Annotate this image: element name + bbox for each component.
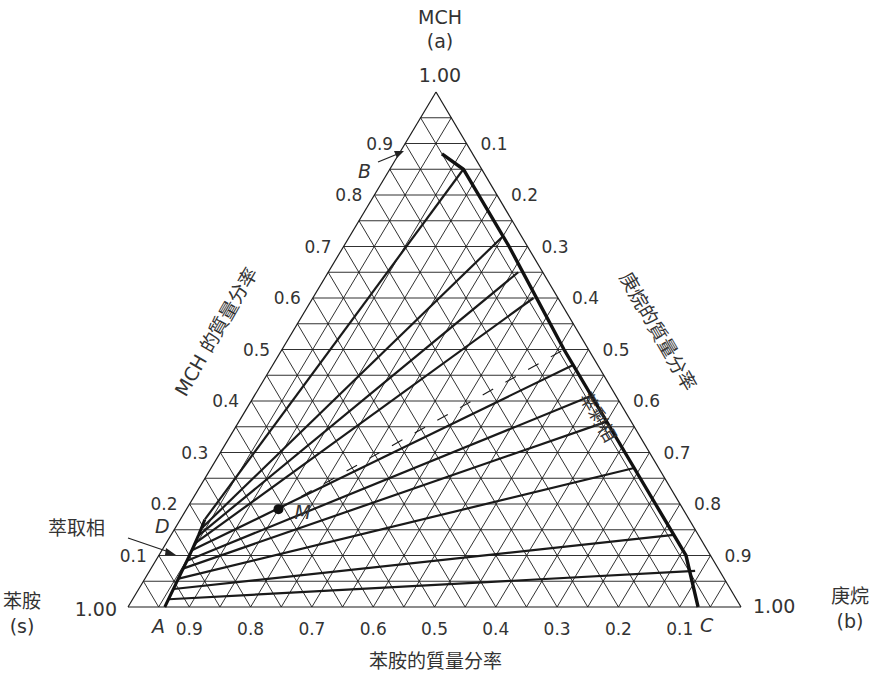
tick-label-bottom: 0.1 xyxy=(666,619,693,639)
tick-label-left: 0.9 xyxy=(366,134,393,154)
tick-label-right: 0.2 xyxy=(511,185,538,205)
axis-label-bottom: 苯胺的質量分率 xyxy=(369,650,502,672)
tick-label-bottom: 0.5 xyxy=(421,619,448,639)
point-label-b: B xyxy=(358,160,371,182)
tick-label-right: 0.1 xyxy=(481,134,508,154)
point-label-a: A xyxy=(150,615,165,637)
tick-label-right: 0.9 xyxy=(725,546,752,566)
tick-label-left: 0.6 xyxy=(274,288,301,308)
grid-line-b xyxy=(281,221,512,607)
mixture-point xyxy=(273,504,283,514)
tick-label-bottom: 0.8 xyxy=(237,619,264,639)
tick-label-left: 0.2 xyxy=(151,494,178,514)
tick-label-left: 0.8 xyxy=(335,185,362,205)
point-b-arrow-head xyxy=(394,151,404,158)
tick-label-bottom: 0.6 xyxy=(360,619,387,639)
extract-arrow-head xyxy=(165,548,176,555)
tick-label-left: 0.3 xyxy=(181,443,208,463)
vertex-top-symbol: (a) xyxy=(427,30,453,52)
tick-label-right: 0.6 xyxy=(633,391,660,411)
grid-line-b xyxy=(404,324,573,607)
grid-line-s xyxy=(143,581,158,607)
grid-lines xyxy=(143,118,725,607)
tick-label-right: 0.5 xyxy=(603,340,630,360)
phase-boundary xyxy=(165,154,698,607)
tick-label-right: 0.4 xyxy=(572,288,599,308)
tick-label-right: 0.7 xyxy=(664,443,691,463)
axis-label-right: 庚烷的質量分率 xyxy=(615,268,701,394)
tick-label-right: 0.8 xyxy=(694,494,721,514)
tick-label-bottom: 0.7 xyxy=(298,619,325,639)
grid-line-s xyxy=(328,272,526,607)
vertex-right-value: 1.00 xyxy=(753,595,795,617)
tick-label-bottom: 0.2 xyxy=(605,619,632,639)
ternary-diagram: 0.90.80.70.60.50.40.30.20.10.10.20.30.40… xyxy=(0,0,887,684)
tie-line xyxy=(169,571,695,599)
tick-label-bottom: 0.3 xyxy=(544,619,571,639)
tie-lines xyxy=(169,169,695,599)
grid-line-b xyxy=(343,272,543,607)
axis-label-left: MCH 的質量分率 xyxy=(170,263,262,400)
point-label-m: M xyxy=(294,501,310,523)
extract-phase-label: 萃取相 xyxy=(48,517,105,539)
tick-label-left: 0.1 xyxy=(120,546,147,566)
vertex-left-value: 1.00 xyxy=(75,598,117,620)
tick-label-bottom: 0.9 xyxy=(176,619,203,639)
tick-label-left: 0.4 xyxy=(212,391,239,411)
vertex-top-value: 1.00 xyxy=(419,64,461,86)
vertex-top-name: MCH xyxy=(418,6,462,28)
vertex-right-symbol: (b) xyxy=(837,610,864,632)
tick-label-left: 0.5 xyxy=(243,340,270,360)
vertex-left-name: 苯胺 xyxy=(3,590,41,612)
vertex-left-symbol: (s) xyxy=(10,615,35,637)
raffinate-phase-label: 萃剩相 xyxy=(575,388,620,445)
grid-line-b xyxy=(710,581,725,607)
tick-label-left: 0.7 xyxy=(305,237,332,257)
tick-label-bottom: 0.4 xyxy=(482,619,509,639)
tick-label-right: 0.3 xyxy=(542,237,569,257)
point-label-c: C xyxy=(700,614,714,636)
mixture-point-m xyxy=(273,504,283,514)
vertex-right-name: 庚烷 xyxy=(831,585,869,607)
point-label-d: D xyxy=(155,515,170,537)
tick-labels: 0.90.80.70.60.50.40.30.20.10.10.20.30.40… xyxy=(120,134,752,640)
